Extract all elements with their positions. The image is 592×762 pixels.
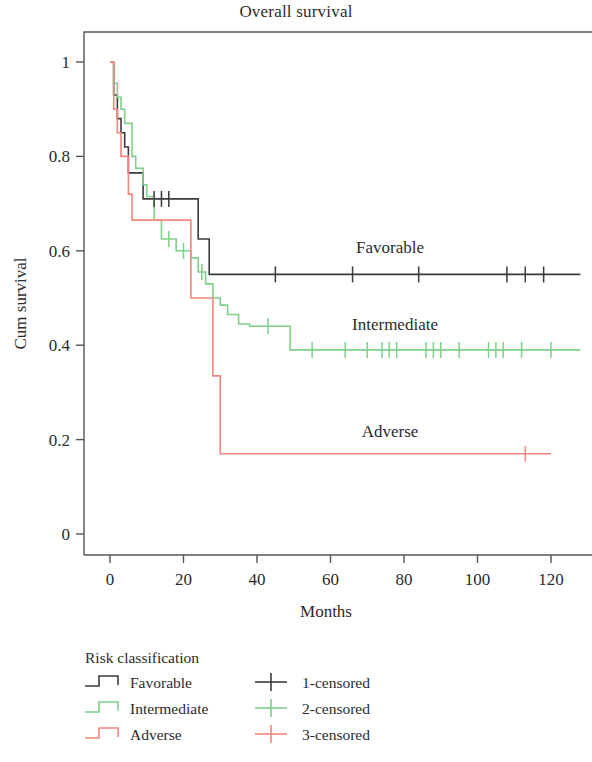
x-tick-label: 40 bbox=[249, 570, 266, 589]
y-tick-label: 0.4 bbox=[49, 336, 71, 355]
x-tick-label: 20 bbox=[175, 570, 192, 589]
x-tick-label: 80 bbox=[396, 570, 413, 589]
x-tick-label: 0 bbox=[106, 570, 115, 589]
legend-label-2-censored: 2-censored bbox=[302, 700, 370, 717]
x-tick-label: 60 bbox=[322, 570, 339, 589]
survival-curve-favorable bbox=[110, 62, 580, 274]
axes-layer: 00.20.40.60.81020406080100120MonthsCum s… bbox=[11, 32, 592, 621]
legend-label-1-censored: 1-censored bbox=[302, 674, 370, 691]
legend-title: Risk classification bbox=[85, 649, 199, 666]
curve-annotation-intermediate: Intermediate bbox=[352, 315, 438, 334]
y-tick-label: 1 bbox=[62, 53, 71, 72]
legend-swatch-2-censored bbox=[255, 699, 287, 717]
curve-annotation-adverse: Adverse bbox=[362, 422, 419, 441]
survival-figure: Overall survival 00.20.40.60.81020406080… bbox=[0, 0, 592, 762]
curves-layer bbox=[110, 62, 580, 454]
y-axis-label: Cum survival bbox=[11, 257, 30, 349]
survival-plot: 00.20.40.60.81020406080100120MonthsCum s… bbox=[0, 0, 592, 762]
legend-label-intermediate: Intermediate bbox=[130, 700, 208, 717]
legend-label-favorable: Favorable bbox=[130, 674, 192, 691]
curve-annotations-layer: FavorableIntermediateAdverse bbox=[352, 238, 438, 441]
x-tick-label: 100 bbox=[465, 570, 491, 589]
legend-layer: Risk classificationFavorableIntermediate… bbox=[85, 649, 370, 743]
legend-swatch-adverse bbox=[85, 728, 118, 738]
curve-annotation-favorable: Favorable bbox=[356, 238, 424, 257]
legend-swatch-intermediate bbox=[85, 702, 118, 712]
survival-curve-adverse bbox=[110, 62, 551, 454]
y-tick-label: 0.2 bbox=[49, 431, 70, 450]
x-axis-label: Months bbox=[300, 602, 352, 621]
y-tick-label: 0.6 bbox=[49, 242, 70, 261]
legend-swatch-favorable bbox=[85, 676, 118, 686]
legend-swatch-1-censored bbox=[255, 673, 287, 691]
legend-label-3-censored: 3-censored bbox=[302, 726, 370, 743]
survival-curve-intermediate bbox=[110, 62, 580, 350]
legend-label-adverse: Adverse bbox=[130, 726, 182, 743]
legend-swatch-3-censored bbox=[255, 725, 287, 743]
y-tick-label: 0.8 bbox=[49, 147, 70, 166]
x-tick-label: 120 bbox=[538, 570, 564, 589]
y-tick-label: 0 bbox=[62, 525, 71, 544]
